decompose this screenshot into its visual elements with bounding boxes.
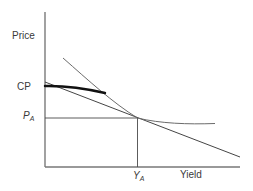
diagram-canvas xyxy=(0,0,253,191)
y-axis-label: Price xyxy=(12,31,35,41)
price-at-a-symbol: P xyxy=(23,110,30,121)
price-yield-diagram: Price Yield CP PA YA xyxy=(0,0,253,191)
price-at-a-subscript: A xyxy=(30,115,35,122)
x-axis-label: Yield xyxy=(180,170,202,180)
yield-at-a-symbol: Y xyxy=(133,170,140,181)
current-price-label: CP xyxy=(17,82,31,92)
price-yield-curve xyxy=(63,58,215,124)
price-at-a-label: PA xyxy=(23,111,34,122)
yield-at-a-subscript: A xyxy=(140,175,145,182)
yield-at-a-label: YA xyxy=(133,171,144,182)
